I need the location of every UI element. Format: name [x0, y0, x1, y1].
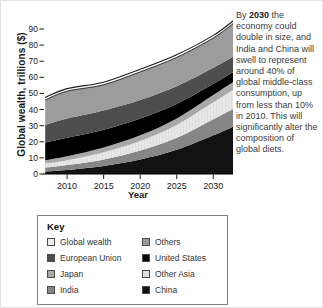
legend-label: Others [155, 237, 181, 247]
legend-grid: Global wealthEuropean UnionJapanIndiaOth… [47, 235, 218, 297]
y-axis-label: Global wealth, trillions ($) [16, 15, 27, 175]
x-axis-label: Year [43, 189, 233, 200]
y-tick-label: 80 [29, 40, 39, 50]
legend-item-other-asia: Other Asia [142, 267, 218, 281]
legend-label: China [155, 285, 177, 295]
legend-item-india: India [47, 283, 142, 297]
legend-item-global-wealth: Global wealth [47, 235, 142, 249]
legend-swatch [47, 238, 55, 246]
y-tick-label: 90 [29, 24, 39, 34]
y-tick-label: 10 [29, 153, 39, 163]
annotation-pre: By [236, 10, 249, 20]
legend-item-japan: Japan [47, 267, 142, 281]
y-tick-label: 40 [29, 105, 39, 115]
stacked-area-chart: 010203040506070809020102015202020252030 [1, 1, 241, 206]
legend-swatch [47, 286, 55, 294]
y-tick-label: 30 [29, 121, 39, 131]
legend-label: Global wealth [60, 237, 112, 247]
y-tick-label: 50 [29, 88, 39, 98]
legend-swatch [142, 238, 150, 246]
global-wealth-infographic: 010203040506070809020102015202020252030 … [0, 0, 323, 308]
legend-swatch [47, 254, 55, 262]
legend-item-china: China [142, 283, 218, 297]
y-tick-label: 20 [29, 137, 39, 147]
legend-item-european-union: European Union [47, 251, 142, 265]
y-tick-label: 60 [29, 72, 39, 82]
legend-item-united-states: United States [142, 251, 218, 265]
y-tick-label: 70 [29, 56, 39, 66]
legend-swatch [142, 270, 150, 278]
annotation-bold-year: 2030 [249, 10, 269, 20]
annotation-rest: the economy could double in size, and In… [236, 10, 318, 154]
annotation-text: By 2030 the economy could double in size… [236, 10, 320, 156]
legend-swatch [142, 286, 150, 294]
chart-areas [45, 19, 235, 174]
legend-box: Key Global wealthEuropean UnionJapanIndi… [37, 215, 228, 305]
legend-swatch [47, 270, 55, 278]
legend-label: United States [155, 253, 206, 263]
legend-label: Other Asia [155, 269, 195, 279]
y-tick-label: 0 [33, 169, 38, 179]
legend-swatch [142, 254, 150, 262]
legend-label: European Union [60, 253, 121, 263]
legend-label: India [60, 285, 78, 295]
legend-item-others: Others [142, 235, 218, 249]
legend-title: Key [47, 221, 218, 232]
legend-label: Japan [60, 269, 83, 279]
